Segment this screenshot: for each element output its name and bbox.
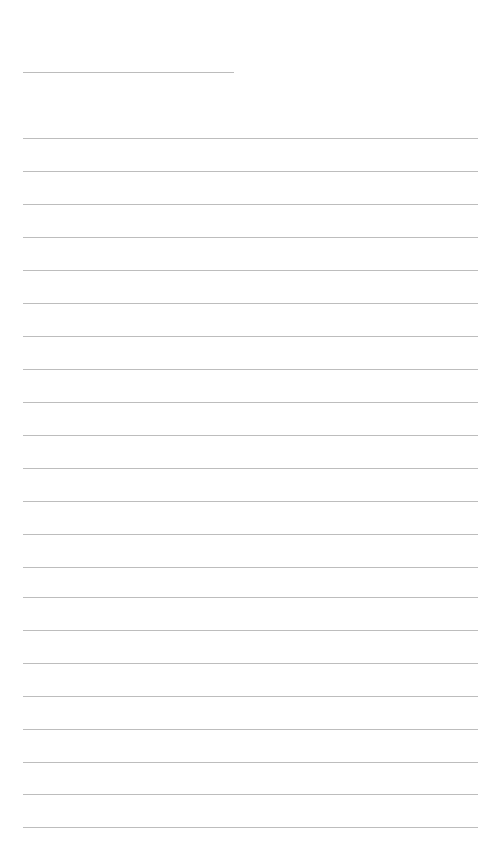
ruled-line	[23, 663, 478, 664]
ruled-line	[23, 204, 478, 205]
ruled-line	[23, 630, 478, 631]
ruled-line	[23, 303, 478, 304]
title-field[interactable]	[23, 50, 234, 70]
ruled-line	[23, 827, 478, 828]
ruled-line	[23, 794, 478, 795]
notepad-page	[0, 0, 500, 862]
ruled-line	[23, 567, 478, 568]
ruled-line	[23, 369, 478, 370]
ruled-line	[23, 729, 478, 730]
ruled-line	[23, 138, 478, 139]
ruled-line	[23, 270, 478, 271]
ruled-line	[23, 534, 478, 535]
ruled-line	[23, 402, 478, 403]
ruled-line	[23, 501, 478, 502]
ruled-line	[23, 696, 478, 697]
ruled-line	[23, 336, 478, 337]
ruled-line	[23, 435, 478, 436]
ruled-line	[23, 237, 478, 238]
ruled-line	[23, 171, 478, 172]
ruled-line	[23, 468, 478, 469]
ruled-line	[23, 597, 478, 598]
ruled-line	[23, 762, 478, 763]
title-underline	[23, 72, 234, 73]
